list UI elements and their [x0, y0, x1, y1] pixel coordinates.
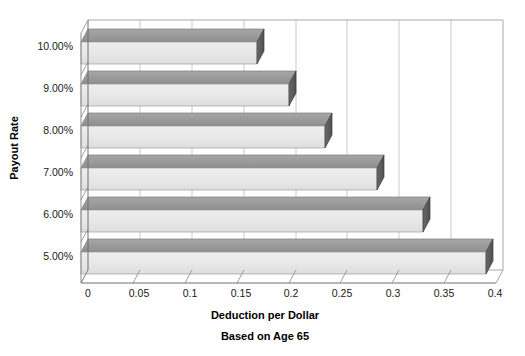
- bar-front-face: [81, 84, 289, 106]
- chart-canvas: 10.00% 9.00% 8.00% 7.00% 6.00% 5.00% 0 0…: [0, 0, 525, 356]
- y-tick-label: 9.00%: [43, 82, 73, 94]
- y-tick-label: 8.00%: [43, 124, 73, 136]
- bar-top-face: [81, 239, 493, 252]
- x-tick-label: 0.05: [129, 287, 150, 299]
- x-tick-label: 0.1: [183, 287, 198, 299]
- y-tick-labels: 10.00% 9.00% 8.00% 7.00% 6.00% 5.00%: [37, 40, 73, 262]
- bar-front-face: [81, 210, 423, 232]
- y-tick-label: 6.00%: [43, 208, 73, 220]
- y-tick-label: 7.00%: [43, 166, 73, 178]
- x-tick-label: 0.15: [231, 287, 252, 299]
- x-tick-label: 0: [85, 287, 91, 299]
- y-axis-title: Payout Rate: [8, 116, 20, 180]
- x-axis-title-line2: Based on Age 65: [221, 330, 309, 342]
- bar-top-face: [81, 29, 264, 42]
- bar-7.00pct: [81, 155, 384, 190]
- x-tick-label: 0.35: [434, 287, 455, 299]
- bar-top-face: [81, 113, 332, 126]
- bar-9.00pct: [81, 71, 296, 106]
- bar-top-face: [81, 197, 430, 210]
- x-tick-label: 0.3: [386, 287, 401, 299]
- y-tick-label: 5.00%: [43, 250, 73, 262]
- y-tick-label: 10.00%: [37, 40, 73, 52]
- x-axis-title-line1: Deduction per Dollar: [211, 309, 320, 321]
- bar-10.00pct: [81, 29, 264, 64]
- bar-5.00pct: [81, 239, 493, 274]
- bar-front-face: [81, 42, 257, 64]
- bar-front-face: [81, 168, 377, 190]
- x-tick-label: 0.2: [284, 287, 299, 299]
- x-tick-labels: 0 0.05 0.1 0.15 0.2 0.25 0.3 0.35 0.4: [85, 287, 502, 299]
- bar-top-face: [81, 155, 384, 168]
- bar-front-face: [81, 252, 486, 274]
- x-tick-label: 0.25: [332, 287, 353, 299]
- bar-6.00pct: [81, 197, 430, 232]
- bar-front-face: [81, 126, 325, 148]
- bar-chart: 10.00% 9.00% 8.00% 7.00% 6.00% 5.00% 0 0…: [0, 0, 525, 356]
- bar-top-face: [81, 71, 296, 84]
- x-tick-label: 0.4: [488, 287, 503, 299]
- bar-8.00pct: [81, 113, 332, 148]
